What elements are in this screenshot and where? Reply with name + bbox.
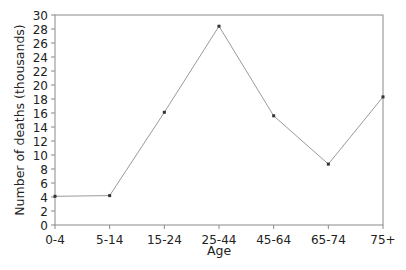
y-tick-label: 24	[33, 51, 48, 65]
data-point-marker	[272, 114, 275, 117]
plot-border	[55, 15, 383, 225]
x-tick-label: 75+	[370, 233, 395, 247]
y-tick-label: 14	[33, 121, 48, 135]
x-tick-label: 45-64	[256, 233, 291, 247]
chart-canvas: 024681012141618202224262830 0-45-1415-24…	[0, 0, 406, 270]
series-line	[55, 26, 383, 196]
data-point-marker	[54, 195, 57, 198]
y-tick-label: 20	[33, 79, 48, 93]
data-point-marker	[163, 111, 166, 114]
y-tick-label: 18	[33, 93, 48, 107]
y-tick-label: 6	[40, 177, 48, 191]
data-point-marker	[327, 163, 330, 166]
data-point-marker	[218, 25, 221, 28]
data-point-marker	[382, 95, 385, 98]
y-tick-label: 28	[33, 23, 48, 37]
x-tick-label: 15-24	[147, 233, 182, 247]
plot-frame	[55, 15, 383, 225]
y-tick-label: 8	[40, 163, 48, 177]
y-tick-label: 0	[40, 219, 48, 233]
y-tick-label: 12	[33, 135, 48, 149]
data-point-marker	[108, 194, 111, 197]
data-series	[54, 25, 385, 198]
x-tick-label: 65-74	[311, 233, 346, 247]
y-axis-title: Number of deaths (thousands)	[12, 24, 27, 216]
y-tick-label: 16	[33, 107, 48, 121]
y-tick-label: 30	[33, 9, 48, 23]
x-tick-label: 5-14	[96, 233, 123, 247]
y-tick-label: 22	[33, 65, 48, 79]
y-tick-label: 4	[40, 191, 48, 205]
x-axis-title: Age	[207, 243, 231, 258]
y-axis: 024681012141618202224262830	[33, 9, 55, 233]
y-tick-label: 10	[33, 149, 48, 163]
x-tick-label: 0-4	[45, 233, 65, 247]
y-tick-label: 26	[33, 37, 48, 51]
y-tick-label: 2	[40, 205, 48, 219]
line-chart: 024681012141618202224262830 0-45-1415-24…	[0, 0, 406, 270]
